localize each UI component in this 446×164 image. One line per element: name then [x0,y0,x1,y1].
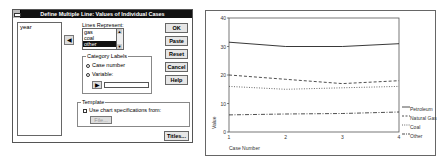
variable-label: Variable: [92,71,113,77]
y-tick-0: 0 [223,129,226,135]
series-other [229,112,399,115]
chart-window: 0 10 20 30 40 Value 1 2 3 4 Case Number … [205,10,436,156]
arrow-left-icon: ◀ [67,37,72,43]
x-axis-label: Case Number [229,145,260,151]
y-tick-10: 10 [220,101,226,107]
ok-button[interactable]: OK [165,23,188,33]
arrow-right-icon: ▶ [95,82,100,88]
case-number-radio[interactable]: Case number [86,62,125,68]
y-tick-30: 30 [220,44,226,50]
use-chart-spec-checkbox[interactable]: Use chart specifications from: [83,107,161,113]
y-tick-40: 40 [220,15,226,21]
define-multiple-line-dialog: Define Multiple Line: Values of Individu… [12,9,193,143]
x-tick-1: 1 [228,134,231,140]
series-coal [229,86,399,89]
legend-coal: Coal [410,124,420,130]
move-variable-button[interactable]: ◀ [64,35,74,45]
chart-legend: Petroleum Natural Gas Coal Other [402,106,437,139]
variable-radio[interactable]: Variable: [86,71,113,77]
checkbox-icon [83,109,87,113]
line-chart: 0 10 20 30 40 Value 1 2 3 4 Case Number … [206,11,437,157]
help-button[interactable]: Help [165,75,188,85]
x-tick-4: 4 [398,134,401,140]
y-axis: 0 10 20 30 40 [220,15,229,135]
plot-area [229,18,399,132]
dialog-title: Define Multiple Line: Values of Individu… [13,10,192,18]
x-tick-3: 3 [341,134,344,140]
y-axis-label: Value [211,116,217,129]
category-labels-group: Category Labels Case number Variable: ▶ [82,56,152,94]
use-chart-spec-label: Use chart specifications from: [89,107,161,113]
template-title: Template [81,99,105,105]
series-natural-gas [229,75,399,84]
category-variable-input[interactable] [104,82,149,88]
category-variable-arrow-button[interactable]: ▶ [92,81,102,89]
titles-button[interactable]: Titles... [164,131,189,141]
cancel-button[interactable]: Cancel [165,62,188,72]
x-tick-2: 2 [284,134,287,140]
system-menu-icon[interactable] [13,10,21,18]
x-axis: 1 2 3 4 [228,134,401,140]
legend-natural-gas: Natural Gas [410,115,437,121]
legend-other: Other [410,133,423,139]
radio-selected-icon [86,64,90,68]
series-petroleum [229,42,399,46]
legend-petroleum: Petroleum [410,106,433,112]
variable-item-year[interactable]: year [20,24,59,30]
radio-unselected-icon [86,73,90,77]
file-button[interactable]: File... [90,116,112,124]
lines-represent-list[interactable]: gas coal other ▲ ▼ [82,28,124,50]
source-variable-list[interactable]: year [17,22,62,136]
case-number-label: Case number [92,62,125,68]
scroll-down-icon[interactable]: ▼ [117,44,122,49]
lines-list-scrollbar[interactable]: ▲ ▼ [116,29,123,49]
paste-button[interactable]: Paste [165,36,188,46]
category-labels-title: Category Labels [86,53,128,59]
reset-button[interactable]: Reset [165,49,188,59]
scroll-up-icon[interactable]: ▲ [117,29,122,34]
template-group: Template Use chart specifications from: … [77,102,190,127]
y-tick-20: 20 [220,72,226,78]
